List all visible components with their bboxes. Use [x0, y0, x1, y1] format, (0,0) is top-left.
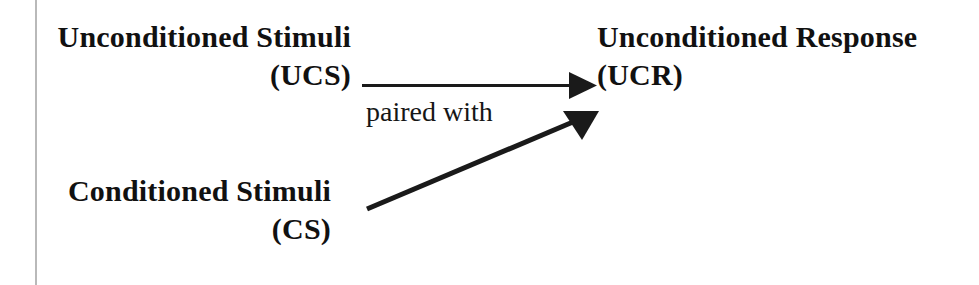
- arrow-cs-to-ucr-shaft: [367, 119, 580, 209]
- arrow-ucs-to-ucr-head: [569, 72, 597, 99]
- arrow-cs-to-ucr: [367, 111, 599, 209]
- classical-conditioning-figure: Unconditioned Stimuli (UCS) Conditioned …: [0, 0, 979, 285]
- arrow-layer: [0, 0, 979, 285]
- arrow-ucs-to-ucr: [362, 72, 597, 99]
